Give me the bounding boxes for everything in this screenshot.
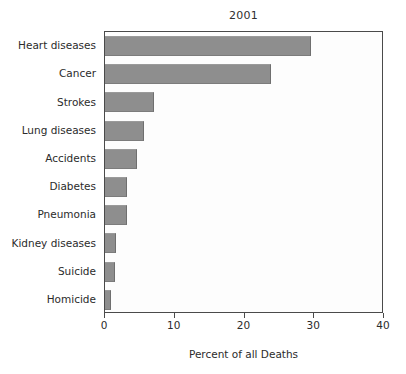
bar	[105, 149, 137, 169]
bar-row	[105, 88, 382, 116]
bar-row	[105, 173, 382, 201]
x-tick-label: 40	[363, 319, 403, 331]
category-label: Lung diseases	[0, 124, 96, 136]
bar-row	[105, 145, 382, 173]
bar	[105, 64, 271, 84]
x-tick-label: 10	[154, 319, 194, 331]
plot-area	[104, 31, 383, 313]
bar-row	[105, 32, 382, 60]
x-tick-mark	[313, 313, 314, 318]
bar-row	[105, 286, 382, 314]
category-label: Homicide	[0, 293, 96, 305]
x-tick-mark	[174, 313, 175, 318]
bar-row	[105, 258, 382, 286]
bar	[105, 205, 127, 225]
bar-row	[105, 229, 382, 257]
bar	[105, 290, 111, 310]
x-tick-label: 30	[293, 319, 333, 331]
bar-row	[105, 60, 382, 88]
bar	[105, 262, 115, 282]
category-label: Diabetes	[0, 180, 96, 192]
category-label: Cancer	[0, 67, 96, 79]
category-label: Accidents	[0, 152, 96, 164]
category-label: Heart diseases	[0, 39, 96, 51]
bars-container	[105, 32, 382, 312]
bar	[105, 121, 144, 141]
x-tick-label: 0	[84, 319, 124, 331]
x-tick-mark	[244, 313, 245, 318]
category-label: Kidney diseases	[0, 237, 96, 249]
category-label: Suicide	[0, 265, 96, 277]
chart-title: 2001	[104, 9, 383, 22]
bar	[105, 92, 154, 112]
bar-row	[105, 201, 382, 229]
x-tick-mark	[104, 313, 105, 318]
bar	[105, 36, 311, 56]
category-label: Strokes	[0, 96, 96, 108]
bar-chart-figure: 2001 Heart diseasesCancerStrokesLung dis…	[0, 0, 406, 374]
x-tick-mark	[383, 313, 384, 318]
bar	[105, 233, 116, 253]
category-label: Pneumonia	[0, 208, 96, 220]
x-tick-label: 20	[224, 319, 264, 331]
bar	[105, 177, 127, 197]
x-axis-title: Percent of all Deaths	[104, 348, 383, 360]
bar-row	[105, 117, 382, 145]
